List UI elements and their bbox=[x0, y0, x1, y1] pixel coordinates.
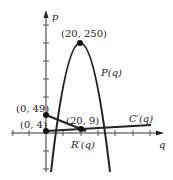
C-prime-label: C′(q) bbox=[129, 113, 153, 124]
x-axis-arrow-icon bbox=[156, 131, 164, 136]
point-vertex bbox=[77, 40, 83, 46]
c-intercept-label: (0, 4) bbox=[20, 119, 47, 130]
R-prime-label: R′(q) bbox=[70, 139, 95, 150]
P-label: P(q) bbox=[100, 67, 122, 78]
y-axis-arrow-icon bbox=[44, 10, 49, 18]
r-intercept-label: (0, 49) bbox=[16, 103, 49, 114]
series-P bbox=[51, 43, 110, 172]
p-axis-label: p bbox=[52, 11, 59, 22]
vertex-label: (20, 250) bbox=[61, 28, 107, 39]
point-intersection bbox=[78, 126, 84, 132]
intersection-label: (20, 9) bbox=[66, 115, 99, 126]
q-axis-label: q bbox=[159, 139, 165, 150]
chart: p q (20, 250) P(q) (0, 49) (0, 4) (20, 9… bbox=[0, 0, 173, 180]
